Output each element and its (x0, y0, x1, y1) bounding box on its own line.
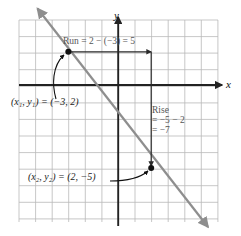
point-2-leader (110, 171, 148, 181)
x-axis-label: x (226, 79, 231, 91)
rise-annotation-line-3: = −7 (152, 126, 185, 136)
point-1-label: (x₁, y₁) = (−3, 2) (11, 97, 79, 108)
point-2-label: (x₂, y₂) = (2, −5) (28, 172, 96, 183)
slope-diagram: Run = 2 − (−3) = 5 Rise = −5 − 2 = −7 (x… (0, 0, 241, 236)
point-1-leader (54, 55, 64, 99)
point-2-marker (148, 165, 154, 171)
run-annotation: Run = 2 − (−3) = 5 (63, 37, 135, 47)
rise-annotation: Rise = −5 − 2 = −7 (152, 106, 185, 136)
point-1-marker (65, 49, 71, 55)
y-axis-label: y (114, 10, 119, 22)
